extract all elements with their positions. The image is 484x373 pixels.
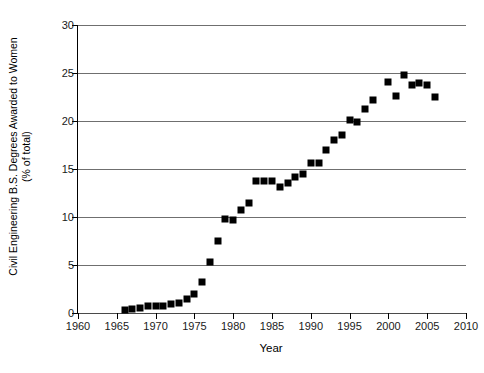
data-point — [214, 238, 221, 245]
x-tick-1975 — [194, 313, 195, 319]
data-point — [276, 184, 283, 191]
data-point — [400, 71, 407, 78]
data-point — [416, 79, 423, 86]
data-point — [393, 93, 400, 100]
data-point — [144, 303, 151, 310]
data-point — [362, 106, 369, 113]
data-point — [424, 82, 431, 89]
gridline-y-30 — [78, 25, 466, 26]
x-axis-title: Year — [77, 342, 465, 354]
x-tick-1965 — [117, 313, 118, 319]
data-point — [292, 173, 299, 180]
data-point — [230, 216, 237, 223]
data-point — [369, 96, 376, 103]
x-tick-2005 — [427, 313, 428, 319]
y-tick-label-5: 5 — [68, 260, 74, 271]
data-point — [431, 94, 438, 101]
x-tick-label-2005: 2005 — [415, 321, 439, 332]
data-point — [284, 180, 291, 187]
gridline-y-5 — [78, 265, 466, 266]
data-point — [300, 170, 307, 177]
chart-figure: Civil Engineering B.S. Degrees Awarded t… — [0, 0, 484, 373]
x-tick-2010 — [466, 313, 467, 319]
x-tick-1960 — [78, 313, 79, 319]
data-point — [408, 81, 415, 88]
x-tick-1985 — [272, 313, 273, 319]
data-point — [338, 132, 345, 139]
data-point — [206, 259, 213, 266]
x-tick-label-1960: 1960 — [66, 321, 90, 332]
x-tick-label-2000: 2000 — [376, 321, 400, 332]
data-point — [137, 305, 144, 312]
plot-area: 0510152025301960196519701975198019851990… — [77, 25, 465, 313]
y-axis-title-line1: Civil Engineering B.S. Degrees Awarded t… — [7, 37, 19, 275]
y-tick-label-30: 30 — [62, 20, 74, 31]
y-axis-title-line2: (% of total) — [20, 131, 32, 182]
data-point — [307, 160, 314, 167]
data-point — [175, 300, 182, 307]
data-point — [199, 279, 206, 286]
x-tick-label-1965: 1965 — [105, 321, 129, 332]
y-tick-label-10: 10 — [62, 212, 74, 223]
data-point — [323, 146, 330, 153]
x-tick-1995 — [350, 313, 351, 319]
x-tick-label-1975: 1975 — [182, 321, 206, 332]
data-point — [152, 303, 159, 310]
data-point — [354, 118, 361, 125]
x-tick-label-1970: 1970 — [143, 321, 167, 332]
y-tick-label-25: 25 — [62, 68, 74, 79]
y-tick-label-20: 20 — [62, 116, 74, 127]
data-point — [261, 178, 268, 185]
data-point — [346, 117, 353, 124]
data-point — [315, 160, 322, 167]
data-point — [237, 207, 244, 214]
data-point — [222, 215, 229, 222]
x-tick-label-2010: 2010 — [454, 321, 478, 332]
data-point — [129, 306, 136, 313]
y-tick-label-0: 0 — [68, 308, 74, 319]
x-tick-label-1995: 1995 — [337, 321, 361, 332]
gridline-y-25 — [78, 73, 466, 74]
x-tick-1980 — [233, 313, 234, 319]
gridline-y-15 — [78, 169, 466, 170]
data-point — [331, 137, 338, 144]
x-tick-2000 — [388, 313, 389, 319]
x-tick-label-1990: 1990 — [299, 321, 323, 332]
gridline-y-20 — [78, 121, 466, 122]
data-point — [121, 307, 128, 314]
data-point — [245, 199, 252, 206]
y-axis-title: Civil Engineering B.S. Degrees Awarded t… — [0, 0, 40, 313]
data-point — [183, 295, 190, 302]
data-point — [160, 303, 167, 310]
x-tick-1990 — [311, 313, 312, 319]
y-tick-label-15: 15 — [62, 164, 74, 175]
data-point — [191, 290, 198, 297]
data-point — [385, 78, 392, 85]
data-point — [253, 178, 260, 185]
x-tick-label-1980: 1980 — [221, 321, 245, 332]
x-tick-label-1985: 1985 — [260, 321, 284, 332]
x-tick-1970 — [156, 313, 157, 319]
data-point — [168, 301, 175, 308]
gridline-y-10 — [78, 217, 466, 218]
data-point — [269, 178, 276, 185]
